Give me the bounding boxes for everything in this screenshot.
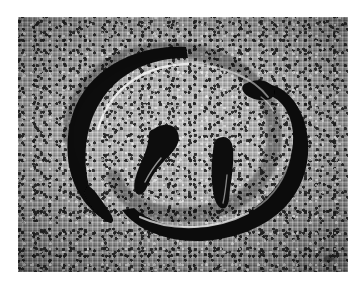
image-canvas [0, 0, 360, 286]
photograph-plate [18, 17, 348, 272]
fabric-light-speckles [18, 17, 348, 272]
